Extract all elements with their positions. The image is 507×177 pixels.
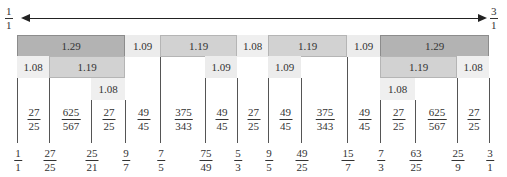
ratio-box: 1.19 (268, 35, 347, 57)
tick-label: 97 (122, 148, 130, 173)
tick-line (380, 100, 381, 143)
tick-label: 73 (377, 148, 385, 173)
arrow-right-icon (478, 14, 487, 22)
interval-ratio: 625567 (62, 107, 81, 132)
tick-line (237, 78, 238, 143)
interval-ratio: 4945 (216, 107, 229, 132)
ratio-box: 1.09 (205, 56, 237, 78)
interval-ratio: 2725 (103, 107, 116, 132)
ratio-box: 1.08 (237, 35, 268, 57)
ratio-box: 1.29 (380, 35, 489, 57)
tick-line (415, 100, 416, 143)
axis-start-label: 1 1 (5, 6, 13, 31)
tick-label: 31 (486, 148, 494, 173)
tick-label: 11 (14, 148, 22, 173)
ratio-box: 1.09 (268, 56, 301, 78)
ratio-box: 1.29 (17, 35, 125, 57)
tick-line (268, 78, 269, 143)
ratio-box: 1.19 (160, 35, 237, 57)
tick-label: 4925 (296, 148, 309, 173)
interval-ratio: 625567 (428, 107, 447, 132)
interval-ratio: 4945 (279, 107, 292, 132)
interval-ratio: 375343 (174, 107, 193, 132)
interval-ratio: 4945 (358, 107, 371, 132)
ratio-box: 1.08 (380, 78, 415, 100)
interval-ratio: 2725 (392, 107, 405, 132)
interval-ratio: 2725 (28, 107, 41, 132)
range-arrow (26, 18, 482, 19)
ratio-box: 1.19 (380, 56, 457, 78)
tick-label: 75 (157, 148, 165, 173)
ratio-box: 1.08 (457, 56, 489, 78)
tick-label: 2521 (86, 148, 99, 173)
ratio-box: 1.08 (91, 78, 125, 100)
tick-label: 6325 (410, 148, 423, 173)
interval-ratio: 2725 (468, 107, 481, 132)
tick-line (489, 78, 490, 143)
tick-line (301, 78, 302, 143)
tick-line (125, 100, 126, 143)
tick-label: 259 (452, 148, 465, 173)
interval-ratio: 4945 (137, 107, 150, 132)
tick-line (347, 57, 348, 143)
interval-ratio: 2725 (247, 107, 260, 132)
tick-line (160, 57, 161, 143)
tick-line (205, 78, 206, 143)
ratio-box: 1.19 (49, 56, 125, 78)
tick-line (17, 78, 18, 143)
tick-label: 7549 (200, 148, 213, 173)
tick-label: 95 (265, 148, 273, 173)
tick-line (49, 78, 50, 143)
tick-label: 157 (342, 148, 355, 173)
ratio-box: 1.09 (347, 35, 380, 57)
ratio-box: 1.08 (17, 56, 49, 78)
tick-label: 2725 (44, 148, 57, 173)
ratio-box: 1.09 (125, 35, 160, 57)
interval-ratio: 375343 (316, 107, 335, 132)
tick-line (91, 100, 92, 143)
tick-label: 53 (234, 148, 242, 173)
axis-end-label: 3 1 (490, 6, 498, 31)
tick-line (457, 78, 458, 143)
